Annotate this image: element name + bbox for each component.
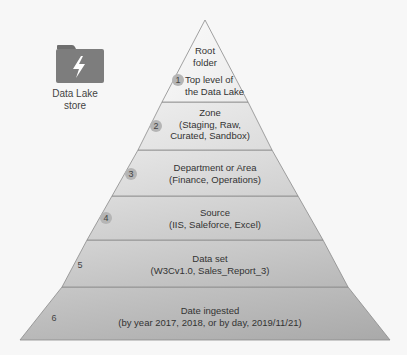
layer-2-label: Zone (Staging, Raw, Curated, Sandbox) — [160, 107, 260, 142]
layer-4-label: Source (IIS, Saleforce, Excel) — [135, 207, 295, 230]
data-lake-hierarchy-diagram: Data Lake store Root folder 1 Top level … — [0, 0, 407, 355]
layer-1-number: 1 — [172, 74, 184, 86]
layer-5-label: Data set (W3Cv1.0, Sales_Report_3) — [120, 253, 300, 276]
data-lake-store-label: Data Lake store — [40, 88, 110, 112]
layer-1-description: Top level of the Data Lake — [185, 74, 244, 97]
layer-4-number: 4 — [100, 212, 112, 224]
layer-5-number: 5 — [74, 259, 86, 271]
layer-3-label: Department or Area (Finance, Operations) — [150, 162, 280, 185]
layer-6-number: 6 — [48, 312, 60, 324]
layer-1-title: Root folder — [180, 45, 230, 68]
layer-3-number: 3 — [125, 168, 137, 180]
layer-6-label: Date ingested (by year 2017, 2018, or by… — [105, 305, 315, 328]
folder-lightning-icon — [56, 45, 104, 83]
